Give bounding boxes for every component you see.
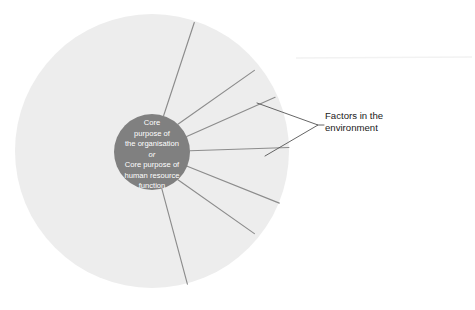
- core-label-line-2: purpose of: [134, 129, 171, 138]
- diagram-root: Core purpose of the organisation or Core…: [0, 0, 475, 310]
- factors-callout-label: Factors in the environment: [325, 110, 383, 133]
- core-label-line-5: Core purpose of: [125, 160, 180, 169]
- scan-artifact-line: [296, 57, 472, 58]
- radial-diagram-canvas: Core purpose of the organisation or Core…: [0, 0, 475, 310]
- core-label-line-3: the organisation: [125, 139, 179, 148]
- callout-label-line-1: Factors in the: [325, 110, 383, 121]
- core-label-line-4: or: [149, 150, 156, 159]
- callout-label-line-2: environment: [325, 122, 378, 133]
- core-label-line-6: human resource: [125, 171, 180, 180]
- core-label-line-7: function: [139, 181, 166, 190]
- core-label-line-1: Core: [144, 118, 160, 127]
